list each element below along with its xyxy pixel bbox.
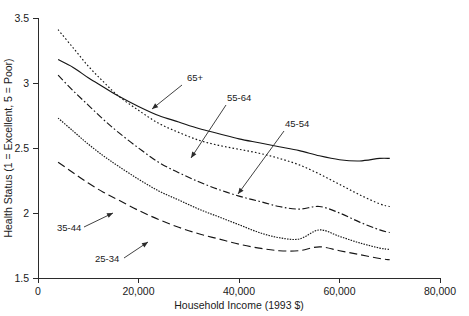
series-line-35-44 xyxy=(58,118,390,249)
y-tick-label: 1.5 xyxy=(14,272,29,284)
annotation-leader-line xyxy=(191,105,226,158)
x-tick-label: 40,000 xyxy=(223,285,255,297)
y-tick-label: 3.5 xyxy=(14,12,29,24)
series-layer xyxy=(58,30,390,260)
annotation-arrowhead xyxy=(152,103,158,109)
x-tick-label: 60,000 xyxy=(323,285,355,297)
y-axis-ticks: 1.522.533.5 xyxy=(14,12,38,284)
x-tick-label: 0 xyxy=(35,285,41,297)
series-annotation-label-35-44: 35-44 xyxy=(57,222,81,233)
annotation-arrowhead xyxy=(238,188,244,194)
series-annotation-label-65plus: 65+ xyxy=(187,72,204,83)
chart-container: 1.522.533.5 020,00040,00060,00080,000 65… xyxy=(0,0,469,316)
series-annotation-label-25-34: 25-34 xyxy=(95,253,119,264)
x-tick-label: 20,000 xyxy=(122,285,154,297)
series-annotation-label-55-64: 55-64 xyxy=(227,92,251,103)
y-tick-label: 2.5 xyxy=(14,142,29,154)
series-line-45-54 xyxy=(58,75,390,232)
x-axis-title: Household Income (1993 $) xyxy=(174,299,304,311)
axes xyxy=(38,18,440,278)
annotation-layer: 65+55-6445-5435-4425-34 xyxy=(57,72,309,264)
series-line-25-34 xyxy=(58,162,390,259)
series-annotation-label-45-54: 45-54 xyxy=(285,118,309,129)
line-chart: 1.522.533.5 020,00040,00060,00080,000 65… xyxy=(0,0,469,316)
series-line-55-64 xyxy=(58,30,390,207)
y-tick-label: 3 xyxy=(23,77,29,89)
annotation-arrowhead xyxy=(142,242,148,247)
y-tick-label: 2 xyxy=(23,207,29,219)
x-tick-label: 80,000 xyxy=(424,285,456,297)
series-line-65plus xyxy=(58,60,390,161)
annotation-arrowhead xyxy=(191,152,196,158)
x-axis-ticks: 020,00040,00060,00080,000 xyxy=(35,278,456,297)
y-axis-title: Health Status (1 = Excellent, 5 = Poor) xyxy=(2,58,14,237)
